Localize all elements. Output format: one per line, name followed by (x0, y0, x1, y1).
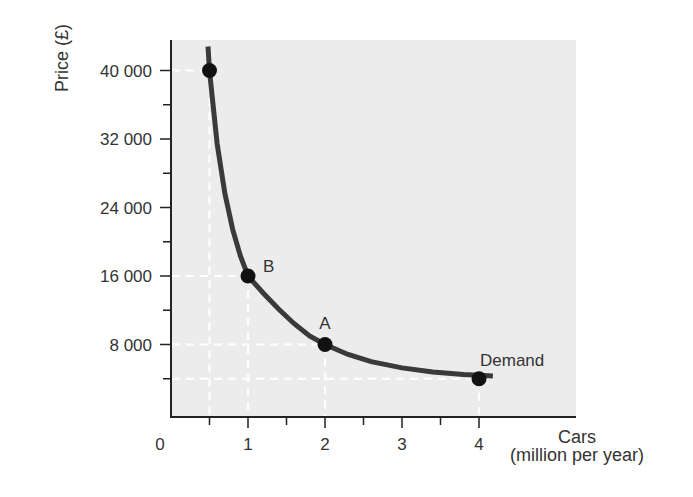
y-axis-ticks: 8 00016 00024 00032 00040 000 (100, 62, 171, 379)
data-point (318, 337, 333, 352)
y-axis-title: Price (£) (52, 24, 72, 92)
x-tick-label: 4 (474, 435, 483, 454)
point-label: A (319, 314, 331, 333)
x-axis-unit: (million per year) (510, 445, 644, 465)
x-axis-title: Cars (558, 427, 596, 447)
x-tick-label: 1 (243, 435, 252, 454)
data-point (472, 371, 487, 386)
x-tick-label: 3 (397, 435, 406, 454)
data-point (241, 269, 256, 284)
point-label: Demand (480, 351, 544, 370)
demand-chart: BADemand 8 00016 00024 00032 00040 000 0… (0, 0, 693, 497)
y-tick-label: 24 000 (100, 199, 152, 218)
x-tick-label: 2 (320, 435, 329, 454)
x-tick-label: 0 (155, 435, 164, 454)
y-tick-label: 32 000 (100, 130, 152, 149)
data-point (202, 63, 217, 78)
y-tick-label: 8 000 (109, 336, 152, 355)
y-tick-label: 16 000 (100, 267, 152, 286)
x-axis-ticks: 01234 (155, 417, 483, 454)
point-label: B (263, 257, 274, 276)
y-tick-label: 40 000 (100, 62, 152, 81)
